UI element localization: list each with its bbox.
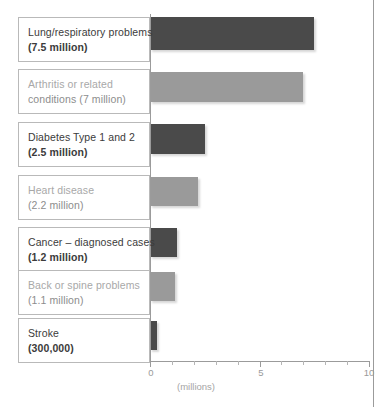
zero-baseline bbox=[150, 14, 151, 361]
x-tick-7 bbox=[303, 361, 304, 365]
bar-value-label: (7.5 million) bbox=[28, 40, 149, 54]
x-tick-3 bbox=[216, 361, 217, 365]
plot-area: Lung/respiratory problems (7.5 million) … bbox=[0, 0, 384, 407]
x-tick-10 bbox=[369, 361, 370, 367]
bar-label-back-spine: Back or spine problems (1.1 million) bbox=[18, 270, 150, 315]
bar-label-line1: Stroke bbox=[28, 326, 149, 340]
x-tick-label-10: 10 bbox=[364, 367, 375, 378]
bar-value-label: (2.2 million) bbox=[28, 198, 149, 212]
bar-arthritis bbox=[150, 72, 303, 102]
bar-label-arthritis: Arthritis or related conditions (7 milli… bbox=[18, 69, 150, 114]
x-tick-1 bbox=[172, 361, 173, 365]
bar-label-line1: Heart disease bbox=[28, 183, 149, 197]
bar-label-stroke: Stroke (300,000) bbox=[18, 318, 150, 363]
bar-back-spine bbox=[150, 272, 175, 301]
x-axis-title: (millions) bbox=[0, 381, 384, 392]
bar-diabetes bbox=[150, 124, 205, 154]
x-tick-6 bbox=[281, 361, 282, 365]
bar-label-diabetes: Diabetes Type 1 and 2 (2.5 million) bbox=[18, 122, 150, 167]
bar-label-line1: Back or spine problems bbox=[28, 278, 149, 292]
bar-lung-respiratory bbox=[150, 17, 314, 50]
bar-label-cancer: Cancer – diagnosed cases (1.2 million) bbox=[18, 227, 150, 272]
bar-value-label: (1.1 million) bbox=[28, 293, 149, 307]
bar-value-label: (300,000) bbox=[28, 341, 149, 355]
bar-label-line1: Lung/respiratory problems bbox=[28, 25, 149, 39]
bar-value-label: (1.2 million) bbox=[28, 250, 149, 264]
bar-label-line2-text: conditions bbox=[28, 93, 79, 105]
x-tick-label-0: 0 bbox=[148, 367, 153, 378]
bar-label-line1: Arthritis or related bbox=[28, 77, 149, 91]
bar-stroke bbox=[150, 321, 157, 350]
x-tick-4 bbox=[238, 361, 239, 365]
bar-label-line1: Cancer – diagnosed cases bbox=[28, 235, 149, 249]
x-tick-2 bbox=[194, 361, 195, 365]
x-tick-8 bbox=[325, 361, 326, 365]
x-tick-5 bbox=[260, 361, 261, 367]
x-tick-9 bbox=[347, 361, 348, 365]
bar-chart: Lung/respiratory problems (7.5 million) … bbox=[0, 0, 384, 407]
bar-label-line2: conditions (7 million) bbox=[28, 92, 149, 106]
bar-label-line1: Diabetes Type 1 and 2 bbox=[28, 130, 149, 144]
bar-value-label: (2.5 million) bbox=[28, 145, 149, 159]
bar-value-label: (7 million) bbox=[79, 93, 126, 105]
bar-label-lung-respiratory: Lung/respiratory problems (7.5 million) bbox=[18, 17, 150, 62]
x-axis-title-text: (millions) bbox=[177, 381, 215, 392]
bar-label-heart-disease: Heart disease (2.2 million) bbox=[18, 175, 150, 220]
x-tick-0 bbox=[150, 361, 151, 367]
bar-heart-disease bbox=[150, 177, 198, 206]
x-tick-label-5: 5 bbox=[258, 367, 263, 378]
